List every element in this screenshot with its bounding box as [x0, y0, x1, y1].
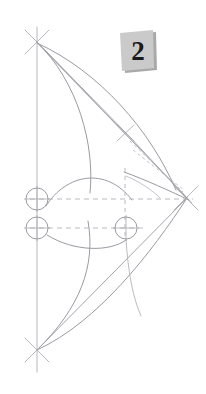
curve-lower-spine — [47, 235, 126, 248]
curve-upper-limb-outer — [37, 42, 91, 193]
cross-marks-group — [25, 30, 198, 362]
circle-upper-left — [24, 186, 50, 212]
cross-mark-right-vertex — [174, 186, 198, 210]
curves-group — [37, 42, 189, 350]
straight-lines-group — [37, 27, 192, 372]
circles-group — [24, 186, 139, 241]
line-bottom-to-right-vertex — [37, 198, 187, 350]
curve-lower-limb-outer — [37, 221, 90, 350]
geometric-construction-drawing — [0, 0, 206, 394]
cross-mark-upper-node — [117, 125, 134, 141]
curve-upper-spine — [46, 178, 132, 206]
dashed-ray-upper — [130, 141, 183, 192]
step-number-badge: 2 — [117, 30, 157, 74]
circle-mid-right — [113, 215, 139, 241]
curve-upper-spine-tip — [124, 172, 189, 200]
figure-canvas: 2 — [0, 0, 206, 394]
step-number-label: 2 — [131, 38, 145, 65]
circle-lower-left — [24, 215, 50, 241]
